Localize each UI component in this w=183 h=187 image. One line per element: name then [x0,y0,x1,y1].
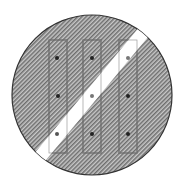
dot-icon [126,94,130,98]
dot-icon [90,94,94,98]
dot-icon [90,132,94,136]
dot-icon [90,56,94,60]
dot-icon [55,56,59,60]
dot-icon [56,94,60,98]
dot-icon [126,132,130,136]
dot-icon [55,132,59,136]
end-of-restriction-sign [0,0,183,187]
dot-icon [126,56,130,60]
